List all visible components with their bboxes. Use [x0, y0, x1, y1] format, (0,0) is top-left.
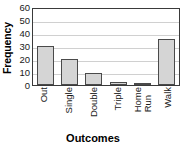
y-axis-tick-label: 30 [19, 42, 30, 52]
y-axis-tick-label: 20 [19, 55, 30, 65]
x-axis-tick: Out [36, 87, 53, 127]
x-axis-tick-label: Out [39, 87, 49, 102]
y-axis-tick-label: 60 [19, 3, 30, 13]
x-axis-tick-label: Single [64, 87, 74, 113]
x-axis-tick: Triple [110, 87, 127, 127]
x-axis-tick: Single [60, 87, 77, 127]
y-axis-tick-label: 10 [19, 68, 30, 78]
x-axis-tick-label-line: Triple [112, 87, 123, 110]
y-axis-tick-label: 40 [19, 29, 30, 39]
plot-area [32, 8, 180, 86]
y-axis-tick-label: 50 [19, 16, 30, 26]
x-axis-tick-label: Triple [113, 87, 123, 110]
y-axis-tick-label: 0 [25, 81, 30, 91]
x-axis-tick-label: Walk [163, 87, 173, 108]
bar [134, 83, 151, 85]
x-axis-tick: Walk [159, 87, 176, 127]
bar [110, 82, 127, 85]
x-axis-tick-label-line: Single [63, 87, 74, 113]
x-axis-tick: Double [85, 87, 102, 127]
bar-chart: Frequency 0102030405060 OutSingleDoubleT… [0, 0, 186, 152]
bar [85, 73, 102, 85]
x-axis-tick-label-line: Run [143, 87, 153, 112]
bar [158, 39, 175, 85]
bar [61, 59, 78, 85]
x-axis-tick-label-line: Double [88, 87, 99, 117]
x-axis-tick-label-line: Walk [162, 87, 173, 108]
x-axis-tick-label: Double [89, 87, 99, 117]
x-axis-tick-label-line: Out [38, 87, 49, 102]
x-axis-tick: HomeRun [134, 87, 151, 127]
bar [37, 46, 54, 85]
x-axis-tick-label: HomeRun [133, 87, 152, 112]
x-axis-tick-labels: OutSingleDoubleTripleHomeRunWalk [32, 87, 180, 127]
bars-group [33, 9, 179, 85]
x-axis-title: Outcomes [0, 132, 186, 144]
y-axis-title-text: Frequency [1, 21, 13, 73]
y-axis-tick-labels: 0102030405060 [13, 8, 31, 86]
y-axis-title: Frequency [0, 0, 14, 95]
